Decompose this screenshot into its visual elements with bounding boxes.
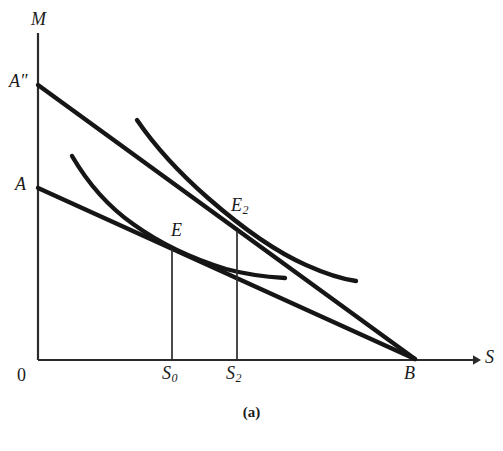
m-axis-label: M xyxy=(31,10,46,28)
figure-caption: (a) xyxy=(0,404,503,421)
quantity-2-letter: S xyxy=(226,363,235,383)
quantity-2-subscript: 2 xyxy=(236,371,242,385)
intercept-low-label: A xyxy=(15,175,26,193)
quantity-0-letter: S xyxy=(162,363,171,383)
intercept-high-letter: A xyxy=(9,71,20,91)
equilibrium-2-label: E2 xyxy=(231,196,249,216)
budget-line-high xyxy=(38,85,415,359)
s-axis-label: S xyxy=(485,348,494,366)
double-prime-glyph: ″ xyxy=(20,71,28,91)
endpoint-label: B xyxy=(404,364,415,382)
equilibrium-1-label: E xyxy=(171,221,182,239)
economics-diagram-svg xyxy=(0,0,503,451)
equilibrium-2-subscript: 2 xyxy=(243,203,249,217)
quantity-2-label: S2 xyxy=(226,364,242,384)
origin-label: 0 xyxy=(17,366,26,384)
quantity-0-label: S0 xyxy=(162,364,178,384)
figure-container: M S 0 A″ A E E2 S0 S2 B (a) xyxy=(0,0,503,451)
equilibrium-2-letter: E xyxy=(231,195,242,215)
quantity-0-subscript: 0 xyxy=(172,371,178,385)
intercept-high-label: A″ xyxy=(9,72,28,90)
s-axis-arrow-icon xyxy=(473,355,481,365)
